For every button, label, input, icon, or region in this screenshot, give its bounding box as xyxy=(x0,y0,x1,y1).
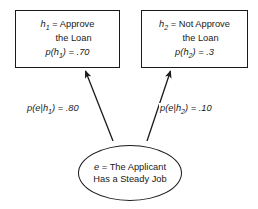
edge-label-likelihood-1: p(e|h1) = .80 xyxy=(26,103,80,115)
hypothesis-2-prob-suffix: ) = .3 xyxy=(192,47,213,57)
hypothesis-1-equals: = xyxy=(52,19,57,29)
hypothesis-1-line1: Approve xyxy=(60,19,95,29)
hypothesis-2-probability: p(h2) = .3 xyxy=(175,46,214,60)
hypothesis-2-title: h2 = Not Approve xyxy=(159,18,230,32)
edge-label-2-suffix: ) = .10 xyxy=(185,103,212,113)
evidence-line1: The Applicant xyxy=(110,162,166,172)
hypothesis-2-line2: the Loan xyxy=(170,32,218,44)
hypothesis-2-line1: Not Approve xyxy=(179,19,230,29)
hypothesis-1-probability: p(h1) = .70 xyxy=(46,46,90,60)
hypothesis-1-title: h1 = Approve xyxy=(41,18,95,32)
hypothesis-1-line2: the Loan xyxy=(43,32,91,44)
bayesian-diagram: h1 = Approve the Loan p(h1) = .70 h2 = N… xyxy=(0,0,258,209)
hypothesis-2-equals: = xyxy=(171,19,176,29)
evidence-symbol: e xyxy=(94,162,99,172)
evidence-node: e = The Applicant Has a Steady Job xyxy=(78,145,182,201)
evidence-title: e = The Applicant xyxy=(94,161,166,173)
edge-label-likelihood-2: p(e|h2) = .10 xyxy=(159,103,213,115)
hypothesis-2-box: h2 = Not Approve the Loan p(h2) = .3 xyxy=(141,10,248,68)
evidence-equals: = xyxy=(102,162,107,172)
edge-evidence-to-hypothesis-1 xyxy=(86,71,114,141)
hypothesis-1-prob-suffix: ) = .70 xyxy=(63,47,90,57)
hypothesis-1-subscript: 1 xyxy=(46,24,50,31)
evidence-line2: Has a Steady Job xyxy=(93,173,166,185)
hypothesis-1-prob-prefix: p( xyxy=(46,47,54,57)
hypothesis-1-box: h1 = Approve the Loan p(h1) = .70 xyxy=(15,10,120,68)
edge-label-1-suffix: ) = .80 xyxy=(52,103,79,113)
hypothesis-2-subscript: 2 xyxy=(164,24,168,31)
